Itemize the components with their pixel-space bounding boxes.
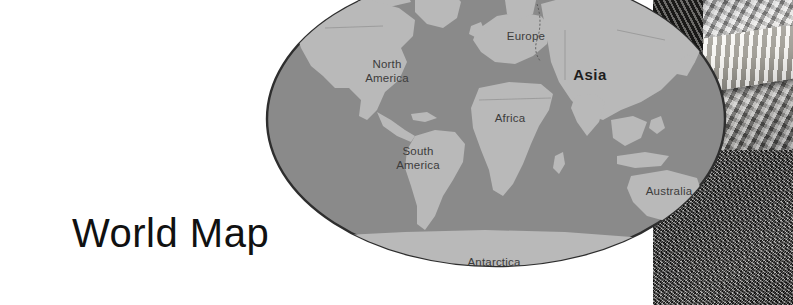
label-australia: Australia	[646, 185, 693, 197]
world-map-page: North America South America Europe Afric…	[0, 0, 793, 305]
label-north-america-line1: North	[372, 58, 401, 70]
page-title: World Map	[72, 211, 269, 256]
new-zealand-landmass	[717, 210, 727, 228]
label-europe: Europe	[507, 30, 545, 42]
label-south-america-line1: South	[402, 145, 433, 157]
label-south-america-line2: America	[396, 159, 440, 171]
label-north-america-line2: America	[365, 72, 409, 84]
label-asia: Asia	[573, 66, 607, 83]
world-map-svg: North America South America Europe Afric…	[265, 0, 727, 268]
world-map-graphic: North America South America Europe Afric…	[265, 0, 727, 268]
label-africa: Africa	[495, 112, 526, 124]
label-antarctica: Antarctica	[467, 256, 521, 268]
